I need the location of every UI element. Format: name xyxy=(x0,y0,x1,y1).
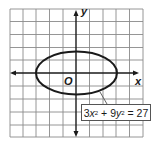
y-axis-label: y xyxy=(81,6,87,17)
x-axis-left-arrow-icon xyxy=(10,71,16,76)
ellipse-graph: y x O 3x2 + 9y2 = 27 xyxy=(0,0,160,150)
equation-label: 3x2 + 9y2 = 27 xyxy=(81,104,151,121)
x-axis-label: x xyxy=(135,76,141,87)
eq-rhs: 27 xyxy=(137,107,149,119)
eq-equals: = xyxy=(128,107,134,119)
x-axis xyxy=(10,71,139,76)
label-leader-line xyxy=(100,92,107,104)
y-axis-up-arrow-icon xyxy=(74,10,79,16)
eq-plus: + xyxy=(101,107,107,119)
y-axis-down-arrow-icon xyxy=(74,131,79,137)
origin-label: O xyxy=(64,76,73,87)
